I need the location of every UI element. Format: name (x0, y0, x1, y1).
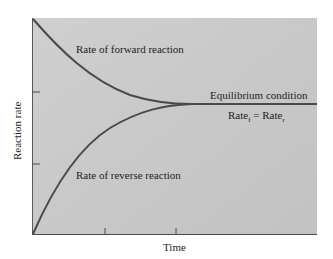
rate-f-base: Rate (228, 109, 248, 121)
rate-r-base: Rate (262, 109, 282, 121)
reaction-rate-chart: Rate of forward reaction Equilibrium con… (0, 0, 333, 259)
x-axis-label: Time (163, 241, 186, 253)
reverse-curve-label: Rate of reverse reaction (76, 169, 181, 181)
equals-sign: = (251, 109, 263, 121)
forward-curve-label: Rate of forward reaction (76, 43, 184, 55)
equilibrium-label: Equilibrium condition (210, 89, 308, 101)
y-axis-label: Reaction rate (11, 102, 23, 160)
